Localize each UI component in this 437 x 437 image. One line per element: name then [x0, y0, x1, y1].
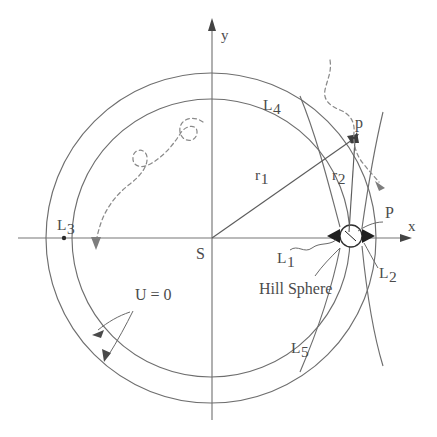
- r1-label: r1: [255, 166, 268, 187]
- primary-body-label: S: [196, 245, 205, 262]
- l2-label: L2: [379, 264, 397, 285]
- lobe-curve-upper-right: [362, 112, 383, 228]
- u-zero-leader-outer: [108, 311, 133, 356]
- flyby-path: [325, 60, 379, 182]
- l3-point-dot: [62, 236, 66, 240]
- flyby-arrowhead: [375, 181, 385, 191]
- x-axis-arrowhead: [400, 234, 412, 242]
- y-axis-arrowhead: [208, 18, 216, 31]
- y-axis-label: y: [221, 27, 229, 43]
- hill-sphere-group: [327, 225, 375, 247]
- secondary-body-label: P: [385, 204, 394, 221]
- r2-vector-line: [349, 140, 355, 232]
- point-markers: [62, 236, 66, 240]
- potential-label: U = 0: [135, 286, 172, 303]
- l3-label: L3: [57, 216, 75, 237]
- lobe-curve-upper-left: [300, 96, 340, 227]
- inward-spiral-path: [96, 118, 203, 243]
- l1-leader: [290, 240, 336, 250]
- r1-vector-line: [212, 140, 352, 238]
- l5-label: L5: [291, 339, 309, 360]
- l1-cusp-marker: [327, 229, 340, 243]
- figure-canvas: y x S P p r1 r2 L1 L2 L3 L4 L5 Hill Sphe…: [0, 0, 437, 437]
- u-zero-leader-inner-arrowhead: [92, 330, 104, 338]
- text-labels: y x S P p r1 r2 L1 L2 L3 L4 L5 Hill Sphe…: [57, 27, 416, 360]
- r2-label: r2: [332, 166, 345, 187]
- hill-sphere-leader: [315, 248, 340, 276]
- three-body-diagram: y x S P p r1 r2 L1 L2 L3 L4 L5 Hill Sphe…: [0, 0, 437, 437]
- x-axis-label: x: [408, 218, 416, 234]
- hill-sphere-label: Hill Sphere: [259, 280, 332, 298]
- u-zero-leader-inner: [98, 312, 130, 330]
- u-zero-leader-outer-arrowhead: [102, 349, 111, 362]
- inward-spiral-arrowhead: [91, 237, 101, 250]
- spiral-trajectory-group: [91, 118, 203, 250]
- l1-label: L1: [277, 249, 295, 270]
- l4-label: L4: [263, 96, 281, 117]
- l2-cusp-marker: [362, 229, 375, 243]
- axis-group: [18, 18, 412, 420]
- particle-label: p: [355, 114, 363, 132]
